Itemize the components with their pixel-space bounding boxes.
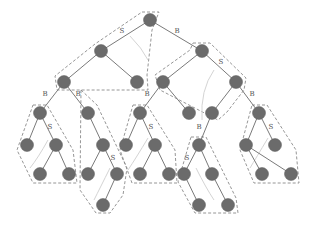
tree-node <box>193 199 206 212</box>
tree-node <box>131 76 144 89</box>
edge-label-s: S <box>185 154 190 162</box>
tree-edge <box>202 51 236 82</box>
tree-node <box>256 168 269 181</box>
edge-label-b: B <box>42 90 47 98</box>
tree-node <box>178 168 191 181</box>
tree-node <box>196 45 209 58</box>
tree-node <box>50 139 63 152</box>
tree-node <box>120 139 133 152</box>
tree-node <box>58 76 71 89</box>
tree-node <box>269 139 282 152</box>
edge-label-s: S <box>149 123 154 131</box>
tree-node <box>95 45 108 58</box>
edge-label-s: S <box>111 154 116 162</box>
tree-edge <box>163 51 202 82</box>
tree-node <box>97 199 110 212</box>
tree-node <box>157 76 170 89</box>
tree-node <box>82 168 95 181</box>
tree-node <box>240 139 253 152</box>
tree-node <box>193 139 206 152</box>
edge-label-b: B <box>144 90 149 98</box>
tree-node <box>163 168 176 181</box>
tree-node <box>111 168 124 181</box>
tree-node <box>34 107 47 120</box>
tree-node <box>206 168 219 181</box>
edge-label-s: S <box>48 123 53 131</box>
edge-label-b: B <box>75 90 80 98</box>
tree-edge <box>101 51 137 82</box>
edge-label-s: S <box>219 58 224 66</box>
tree-diagram: SBSBBBBSSBSSS <box>0 0 314 227</box>
tree-node <box>82 107 95 120</box>
tree-nodes <box>21 14 298 212</box>
edge-label-b: B <box>249 90 254 98</box>
tree-edge <box>64 51 101 82</box>
tree-edge <box>150 20 202 51</box>
edge-label-s: S <box>120 27 125 35</box>
tree-node <box>21 139 34 152</box>
tree-node <box>183 107 196 120</box>
tree-node <box>285 168 298 181</box>
tree-node <box>253 107 266 120</box>
tree-edge <box>101 20 150 51</box>
tree-node <box>97 139 110 152</box>
tree-node <box>222 199 235 212</box>
tree-node <box>230 76 243 89</box>
tree-node <box>134 107 147 120</box>
tree-node <box>63 168 76 181</box>
tree-node <box>149 139 162 152</box>
tree-edge <box>246 145 291 174</box>
tree-node <box>134 168 147 181</box>
edge-label-b: B <box>174 27 179 35</box>
edge-label-b: B <box>196 123 201 131</box>
edge-label-s: S <box>269 123 274 131</box>
tree-node <box>34 168 47 181</box>
tree-node <box>144 14 157 27</box>
tree-node <box>206 107 219 120</box>
